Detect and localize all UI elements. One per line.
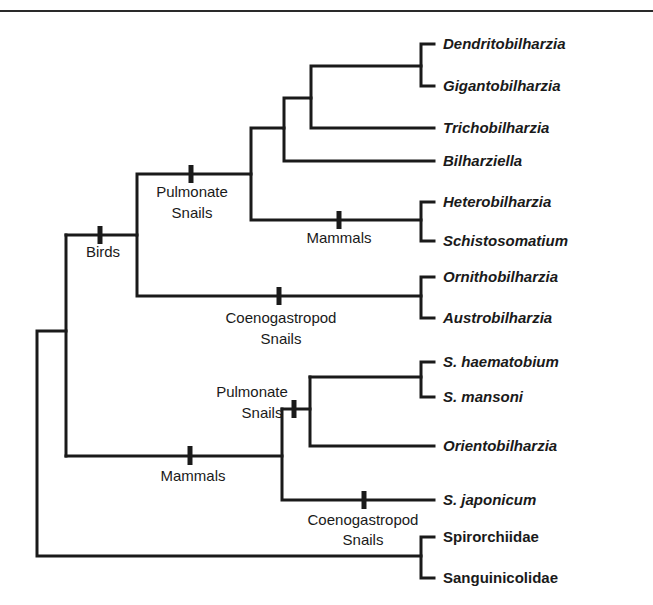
schistosoma-node — [310, 377, 434, 446]
haem-mansoni-node — [421, 362, 434, 397]
taxon-label: S. haematobium — [443, 353, 559, 370]
avian-node-a — [251, 128, 434, 174]
event-label-pulmonate-upper: Pulmonate — [156, 183, 228, 200]
dendro-giganto-node — [421, 44, 434, 86]
avian-node-b — [284, 98, 434, 128]
taxon-label: Orientobilharzia — [443, 437, 557, 454]
outgroup-node — [421, 537, 434, 578]
event-label-coeno-lower: Coenogastropod — [308, 511, 419, 528]
taxon-label: Heterobilharzia — [443, 193, 551, 210]
event-label-pulmonate-lower: Snails — [242, 404, 283, 421]
event-label-coeno-upper: Snails — [261, 330, 302, 347]
taxon-label: Spirorchiidae — [443, 528, 539, 545]
hetero-schisto-node — [421, 202, 434, 241]
ornitho-austro-node — [421, 277, 434, 318]
event-label-pulmonate-lower: Pulmonate — [216, 383, 288, 400]
mammal-node — [282, 409, 434, 500]
taxon-label: Ornithobilharzia — [443, 268, 558, 285]
event-label-mammals-lower: Mammals — [160, 467, 225, 484]
event-label-mammals-upper: Mammals — [306, 229, 371, 246]
avian-node-c — [311, 66, 421, 98]
phylogenetic-tree: Dendritobilharzia Gigantobilharzia Trich… — [0, 0, 653, 605]
taxon-label: Dendritobilharzia — [443, 35, 566, 52]
taxon-label: Gigantobilharzia — [443, 77, 561, 94]
taxon-label: S. mansoni — [443, 388, 524, 405]
taxon-label: Trichobilharzia — [443, 119, 549, 136]
event-label-coeno-lower: Snails — [343, 531, 384, 548]
taxon-label: Sanguinicolidae — [443, 569, 558, 586]
event-label-pulmonate-upper: Snails — [172, 204, 213, 221]
taxon-label: Bilharziella — [443, 152, 522, 169]
taxon-label: Schistosomatium — [443, 232, 568, 249]
taxon-label: S. japonicum — [443, 491, 536, 508]
taxon-label: Austrobilharzia — [442, 309, 552, 326]
event-label-birds: Birds — [86, 243, 120, 260]
event-label-coeno-upper: Coenogastropod — [226, 309, 337, 326]
